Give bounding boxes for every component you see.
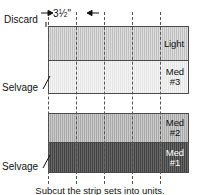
cutline-4 — [132, 12, 133, 184]
strip-light: Light — [49, 27, 188, 60]
dimension-unit: " — [67, 8, 71, 19]
dimension-label: 31⁄2" — [53, 5, 71, 22]
cutline-2 — [76, 12, 77, 184]
strip-med3-label: Med #3 — [166, 67, 188, 87]
cutline-1 — [48, 12, 49, 184]
strip-set-top: Light Med #3 — [48, 26, 189, 94]
cutline-3 — [104, 12, 105, 184]
selvage-label-top: Selvage — [2, 82, 38, 93]
discard-label: Discard — [4, 14, 38, 25]
strip-set-cutting-diagram: 31⁄2" Light Med #3 Med #2 Med #1 Discard… — [0, 0, 200, 195]
strip-med1: Med #1 — [49, 142, 188, 172]
strip-light-label: Light — [164, 39, 188, 49]
dimension-numerator: 1 — [59, 8, 63, 15]
cutline-5 — [160, 12, 161, 184]
strip-med1-label: Med #1 — [166, 148, 188, 168]
dimension-indicator: 31⁄2" — [40, 6, 100, 20]
strip-med3: Med #3 — [49, 60, 188, 93]
strip-set-bottom: Med #2 Med #1 — [48, 113, 189, 173]
diagram-caption: Subcut the strip sets into units. — [0, 185, 200, 195]
strip-med2-label: Med #2 — [166, 118, 188, 138]
selvage-label-bottom: Selvage — [2, 161, 38, 172]
strip-med2: Med #2 — [49, 114, 188, 142]
